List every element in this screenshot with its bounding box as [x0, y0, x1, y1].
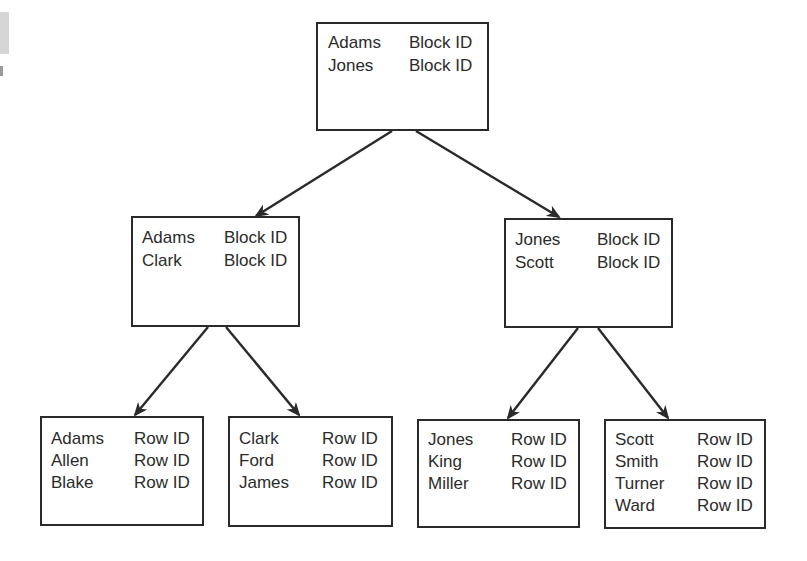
index-entry: James Row ID [230, 472, 391, 494]
entry-key: Smith [615, 451, 658, 473]
entry-key: Adams [51, 428, 104, 450]
entry-key: Miller [428, 473, 469, 495]
index-entry: Jones Block ID [318, 55, 487, 77]
index-entry: Miller Row ID [419, 473, 578, 495]
edge-branch-right-to-leaf-4 [598, 328, 668, 418]
entry-pointer: Row ID [511, 429, 567, 451]
index-entry: King Row ID [419, 451, 578, 473]
entry-pointer: Row ID [322, 472, 378, 494]
leaf-node-4: Scott Row ID Smith Row ID Turner Row ID … [604, 419, 766, 529]
entry-key: Clark [142, 250, 182, 272]
index-entry: Adams Block ID [318, 32, 487, 54]
entry-pointer: Block ID [597, 252, 660, 274]
index-entry: Clark Block ID [133, 250, 298, 272]
entry-key: Adams [142, 227, 195, 249]
edge-branch-left-to-leaf-2 [226, 327, 299, 415]
index-entry: Clark Row ID [230, 428, 391, 450]
entry-key: Allen [51, 450, 89, 472]
entry-pointer: Block ID [409, 32, 472, 54]
edge-branch-left-to-leaf-1 [135, 327, 208, 415]
entry-key: Scott [615, 429, 654, 451]
entry-pointer: Row ID [511, 451, 567, 473]
entry-pointer: Row ID [322, 450, 378, 472]
entry-key: Clark [239, 428, 279, 450]
entry-pointer: Row ID [511, 473, 567, 495]
leaf-node-2: Clark Row ID Ford Row ID James Row ID [228, 416, 393, 527]
edge-root-to-branch-right [416, 131, 559, 217]
index-entry: Allen Row ID [42, 450, 202, 472]
entry-key: Ford [239, 450, 274, 472]
edge-branch-right-to-leaf-3 [508, 328, 578, 418]
entry-key: Turner [615, 473, 664, 495]
entry-pointer: Row ID [134, 472, 190, 494]
leaf-node-1: Adams Row ID Allen Row ID Blake Row ID [40, 416, 204, 526]
index-entry: Adams Row ID [42, 428, 202, 450]
entry-key: Jones [515, 229, 560, 251]
leaf-node-3: Jones Row ID King Row ID Miller Row ID [417, 419, 580, 528]
index-entry: Jones Block ID [506, 229, 671, 251]
entry-key: Adams [328, 32, 381, 54]
index-entry: Blake Row ID [42, 472, 202, 494]
entry-key: Ward [615, 495, 655, 517]
entry-key: Scott [515, 252, 554, 274]
index-entry: Turner Row ID [606, 473, 764, 495]
index-entry: Jones Row ID [419, 429, 578, 451]
index-entry: Smith Row ID [606, 451, 764, 473]
index-entry: Ward Row ID [606, 495, 764, 517]
entry-key: Jones [328, 55, 373, 77]
entry-pointer: Row ID [134, 428, 190, 450]
entry-pointer: Row ID [697, 473, 753, 495]
entry-key: King [428, 451, 462, 473]
index-entry: Ford Row ID [230, 450, 391, 472]
index-entry: Scott Row ID [606, 429, 764, 451]
entry-pointer: Row ID [322, 428, 378, 450]
root-node: Adams Block ID Jones Block ID [316, 22, 489, 131]
entry-pointer: Row ID [697, 429, 753, 451]
entry-key: Blake [51, 472, 94, 494]
entry-key: James [239, 472, 289, 494]
entry-pointer: Block ID [597, 229, 660, 251]
entry-pointer: Row ID [697, 495, 753, 517]
edge-root-to-branch-left [256, 131, 392, 216]
branch-node-right: Jones Block ID Scott Block ID [504, 218, 673, 328]
entry-pointer: Block ID [224, 227, 287, 249]
entry-pointer: Block ID [409, 55, 472, 77]
branch-node-left: Adams Block ID Clark Block ID [131, 216, 300, 327]
index-entry: Adams Block ID [133, 227, 298, 249]
entry-key: Jones [428, 429, 473, 451]
entry-pointer: Block ID [224, 250, 287, 272]
entry-pointer: Row ID [134, 450, 190, 472]
index-entry: Scott Block ID [506, 252, 671, 274]
entry-pointer: Row ID [697, 451, 753, 473]
